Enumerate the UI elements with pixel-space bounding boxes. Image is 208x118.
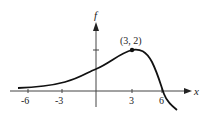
y-axis-arrow-icon	[93, 22, 99, 31]
x-tick-label: 6	[159, 95, 164, 106]
function-curve	[18, 50, 177, 110]
x-axis-label: x	[193, 85, 199, 97]
function-graph: x f -6 -3 3 6 (3, 2)	[0, 0, 208, 118]
y-axis-label: f	[94, 9, 99, 21]
x-tick-label: -6	[21, 95, 29, 106]
max-point-marker	[130, 48, 134, 52]
x-tick-label: 3	[129, 95, 134, 106]
x-tick-label: -3	[55, 95, 63, 106]
x-axis-arrow-icon	[184, 88, 192, 94]
max-point-label: (3, 2)	[120, 35, 142, 47]
